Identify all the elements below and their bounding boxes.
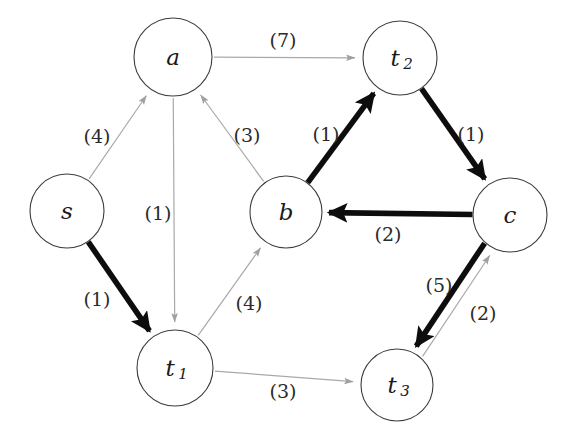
edge-weight-a-t1: (1) [145, 202, 172, 224]
edge-weight-t3-c: (5) [426, 274, 453, 296]
edge-s-t1 [88, 242, 149, 331]
node-c[interactable]: c [473, 178, 547, 252]
node-circle-t3 [361, 349, 433, 421]
nodes-layer: sat2bct1t3 [30, 18, 547, 421]
node-label-t1: t [165, 355, 175, 381]
flow-network-graph: sat2bct1t3 (4)(1)(7)(1)(3)(4)(1)(1)(2)(5… [0, 0, 569, 426]
node-t1[interactable]: t1 [137, 330, 213, 406]
node-label-t2: t [390, 45, 400, 71]
node-label-t3: t [387, 372, 397, 398]
node-label-sub-t2: 2 [402, 55, 413, 73]
edge-weight-s-t1: (1) [84, 288, 111, 310]
node-s[interactable]: s [30, 174, 104, 248]
node-label-s: s [61, 198, 73, 224]
node-label-a: a [166, 44, 180, 70]
node-label-sub-t3: 3 [400, 382, 410, 400]
edge-a-t2 [214, 57, 355, 58]
node-a[interactable]: a [134, 18, 212, 96]
node-b[interactable]: b [250, 176, 322, 248]
node-circle-t1 [137, 330, 213, 406]
node-label-b: b [279, 199, 294, 225]
edge-weight-t1-b: (4) [236, 292, 263, 314]
node-circle-t2 [363, 21, 437, 95]
edge-weight-b-t2: (1) [313, 123, 340, 145]
edge-weight-s-a: (4) [84, 125, 111, 147]
node-t2[interactable]: t2 [363, 21, 437, 95]
edge-weight-b-a: (3) [234, 124, 261, 146]
node-label-c: c [504, 202, 517, 228]
edge-weight-t1-t3: (3) [270, 380, 297, 402]
edge-weight-c-t3: (2) [470, 302, 497, 324]
edge-weight-c-b: (2) [375, 223, 402, 245]
edge-weight-t2-c: (1) [458, 123, 485, 145]
edge-weight-a-t2: (7) [270, 29, 297, 51]
diagram-canvas: sat2bct1t3 (4)(1)(7)(1)(3)(4)(1)(1)(2)(5… [0, 0, 569, 426]
node-t3[interactable]: t3 [361, 349, 433, 421]
node-label-sub-t1: 1 [178, 365, 188, 383]
edge-c-b [329, 213, 473, 215]
edge-a-t1 [173, 98, 174, 322]
